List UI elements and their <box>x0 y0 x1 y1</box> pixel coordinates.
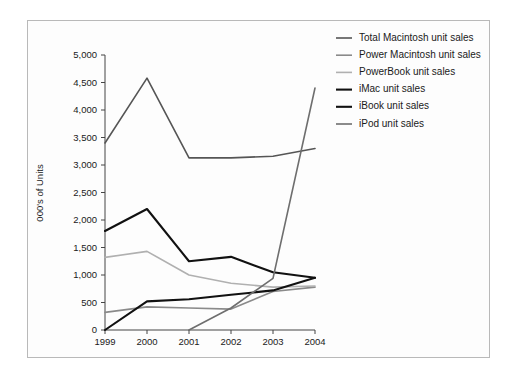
chart-figure: 05001,0001,5002,0002,5003,0003,5004,0004… <box>0 0 518 379</box>
legend-label: iBook unit sales <box>359 100 429 111</box>
x-tick-labels: 199920002001200220032004 <box>94 330 325 347</box>
x-tick-label: 2002 <box>220 336 241 347</box>
legend-label: Total Macintosh unit sales <box>359 32 474 43</box>
chart-legend: Total Macintosh unit salesPower Macintos… <box>336 32 481 129</box>
x-tick-label: 2003 <box>262 336 283 347</box>
legend-label: iMac unit sales <box>359 83 425 94</box>
y-tick-label: 4,000 <box>73 104 97 115</box>
x-tick-label: 1999 <box>94 336 115 347</box>
y-tick-label: 2,500 <box>73 187 97 198</box>
y-tick-label: 5,000 <box>73 49 97 60</box>
legend-label: iPod unit sales <box>359 118 424 129</box>
y-tick-label: 3,000 <box>73 159 97 170</box>
y-tick-labels: 05001,0001,5002,0002,5003,0003,5004,0004… <box>73 49 105 335</box>
series-line <box>105 78 315 158</box>
x-tick-label: 2000 <box>136 336 157 347</box>
y-tick-label: 0 <box>92 324 97 335</box>
x-tick-label: 2004 <box>304 336 325 347</box>
y-tick-label: 4,500 <box>73 77 97 88</box>
series-line <box>189 88 315 330</box>
series-line <box>105 251 315 287</box>
legend-label: Power Macintosh unit sales <box>359 49 481 60</box>
y-tick-label: 3,500 <box>73 132 97 143</box>
legend-label: PowerBook unit sales <box>359 66 455 77</box>
series-line <box>105 278 315 330</box>
y-tick-label: 1,500 <box>73 242 97 253</box>
series-line <box>105 209 315 278</box>
y-axis-title: 000's of Units <box>34 164 45 222</box>
x-tick-label: 2001 <box>178 336 199 347</box>
y-tick-label: 500 <box>81 297 97 308</box>
y-tick-label: 1,000 <box>73 269 97 280</box>
line-chart: 05001,0001,5002,0002,5003,0003,5004,0004… <box>0 0 518 379</box>
y-tick-label: 2,000 <box>73 214 97 225</box>
data-series-group <box>105 78 315 330</box>
